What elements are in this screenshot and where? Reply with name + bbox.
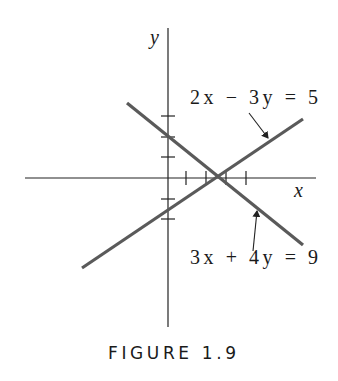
label-line2: 3x + 4y = 9 (190, 246, 318, 269)
label-line1: 2x − 3y = 5 (190, 86, 318, 109)
arrow-line2 (253, 211, 257, 251)
x-axis-label: x (293, 179, 303, 201)
line-3x-plus-4y-eq-9 (127, 103, 303, 245)
y-axis-label: y (148, 26, 159, 49)
figure-caption: FIGURE 1.9 (108, 343, 236, 363)
arrow-line1 (249, 113, 268, 138)
figure-canvas: y x 2x − 3y = 5 3x + 4y = 9 FIGURE 1.9 (0, 0, 338, 381)
